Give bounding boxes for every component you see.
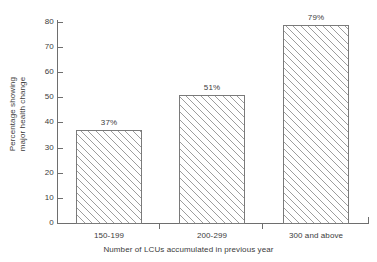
y-axis-tick-label: 60 bbox=[45, 68, 54, 76]
y-axis-tick bbox=[58, 22, 63, 23]
x-axis-category-label-1: 150-199 bbox=[94, 231, 124, 240]
bar-150-199[interactable] bbox=[76, 130, 142, 224]
y-axis-tick bbox=[58, 47, 63, 48]
y-axis-tick bbox=[58, 198, 63, 199]
y-axis-tick-label: 0 bbox=[49, 219, 54, 227]
y-axis-tick bbox=[58, 223, 63, 224]
y-axis-title-line-2: major health change bbox=[18, 44, 28, 184]
bar-value-label: 37% bbox=[101, 118, 117, 127]
bar-200-299[interactable] bbox=[179, 95, 245, 224]
y-axis-tick-label: 10 bbox=[45, 194, 54, 202]
bar-value-label: 79% bbox=[308, 13, 324, 22]
x-axis-end-cap bbox=[368, 217, 369, 224]
x-axis-title: Number of LCUs accumulated in previous y… bbox=[0, 245, 377, 254]
bar-chart-figure: 0 10 20 30 40 50 60 70 80 Percentage sho… bbox=[0, 0, 377, 262]
x-axis-category-label-2: 200-299 bbox=[197, 231, 227, 240]
y-axis-tick-label: 70 bbox=[45, 43, 54, 51]
y-axis-tick-label: 20 bbox=[45, 169, 54, 177]
y-axis-tick bbox=[58, 97, 63, 98]
y-axis-tick-label: 30 bbox=[45, 144, 54, 152]
y-axis-tick bbox=[58, 72, 63, 73]
x-axis-tick bbox=[262, 224, 263, 229]
bar-300-and-above[interactable] bbox=[283, 25, 349, 224]
y-axis-tick bbox=[58, 173, 63, 174]
y-axis-tick bbox=[58, 122, 63, 123]
x-axis-tick bbox=[159, 224, 160, 229]
y-axis-title: Percentage showing major health change bbox=[8, 44, 28, 184]
y-axis-tick bbox=[58, 148, 63, 149]
y-axis-tick-label: 40 bbox=[45, 118, 54, 126]
x-axis-category-label-3: 300 and above bbox=[289, 231, 343, 240]
y-axis-tick-label: 50 bbox=[45, 93, 54, 101]
bar-value-label: 51% bbox=[204, 83, 220, 92]
y-axis-tick-label: 80 bbox=[45, 18, 54, 26]
y-axis-title-line-1: Percentage showing bbox=[8, 44, 18, 184]
